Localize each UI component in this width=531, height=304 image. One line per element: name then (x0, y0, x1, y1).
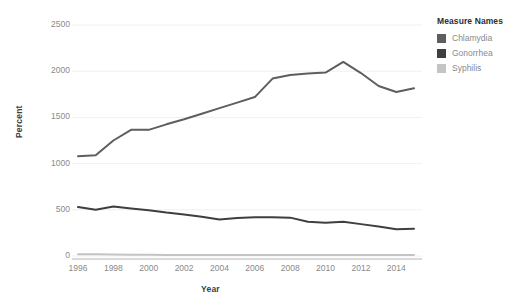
series-line-chlamydia (78, 62, 414, 156)
legend-item-label: Syphilis (452, 63, 481, 73)
legend-item-label: Gonorrhea (452, 48, 493, 58)
legend-item-gonorrhea[interactable]: Gonorrhea (437, 48, 527, 58)
legend: Measure Names ChlamydiaGonorrheaSyphilis (437, 16, 527, 78)
legend-item-label: Chlamydia (452, 33, 492, 43)
legend-title: Measure Names (437, 16, 527, 26)
legend-item-chlamydia[interactable]: Chlamydia (437, 33, 527, 43)
series-line-syphilis (78, 254, 414, 255)
line-chart: Percent Year 05001000150020002500 199619… (0, 0, 531, 304)
gridlines (72, 25, 422, 256)
legend-swatch-icon (437, 64, 446, 73)
legend-swatch-icon (437, 34, 446, 43)
legend-swatch-icon (437, 49, 446, 58)
legend-items: ChlamydiaGonorrheaSyphilis (437, 33, 527, 73)
series-lines (78, 62, 414, 255)
legend-item-syphilis[interactable]: Syphilis (437, 63, 527, 73)
